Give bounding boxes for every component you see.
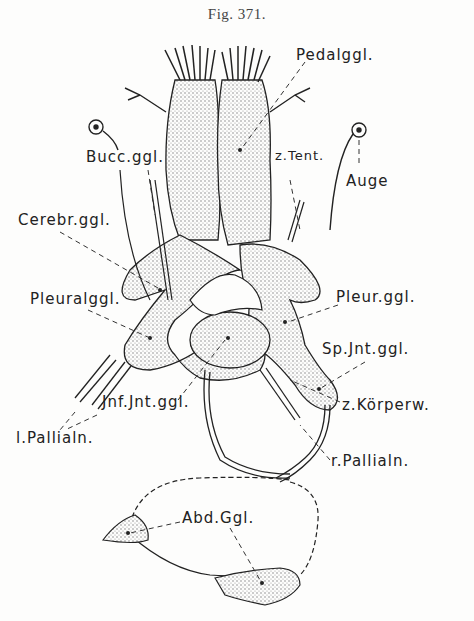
label-abdominal-ganglion: Abd.Ggl. — [182, 509, 254, 527]
label-pleural-ganglion-left: Pleuralggl. — [30, 290, 120, 308]
cerebro-pleural-complex — [122, 235, 337, 410]
nervous-system-diagram — [0, 0, 474, 621]
label-pleural-ganglion-right: Pleur.ggl. — [336, 288, 416, 306]
label-pedal-ganglion: Pedalggl. — [296, 46, 374, 64]
label-supraintestinal-ganglion: Sp.Jnt.ggl. — [322, 340, 409, 358]
pedal-nerve-tufts — [165, 45, 270, 82]
label-infraintestinal-ganglion: Jnf.Jnt.ggl. — [102, 393, 189, 411]
label-left-pallial-nerve: l.Pallialn. — [16, 429, 94, 447]
label-cerebral-ganglion: Cerebr.ggl. — [18, 211, 111, 229]
label-body-wall-nerve: z.Körperw. — [342, 396, 430, 414]
label-tentacle-nerve: z.Tent. — [275, 148, 324, 163]
label-right-pallial-nerve: r.Pallialn. — [331, 452, 409, 470]
pedal-ganglia — [166, 80, 271, 245]
label-buccal-ganglion: Bucc.ggl. — [86, 148, 164, 166]
label-eye: Auge — [346, 172, 389, 190]
abdominal-ganglia — [103, 515, 300, 605]
